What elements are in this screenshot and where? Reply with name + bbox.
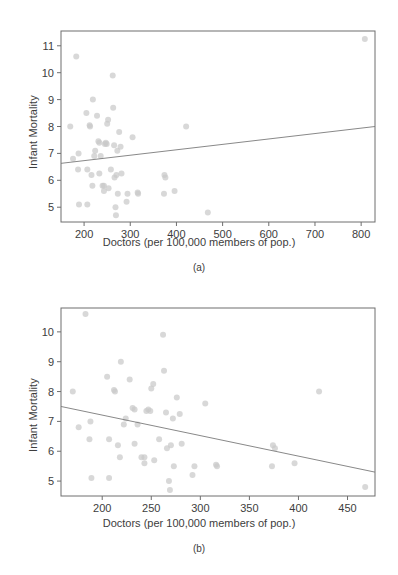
data-point [117,454,123,460]
data-point [108,167,114,173]
data-point [292,460,298,466]
data-point [118,359,124,365]
plot-area-b: Infant Mortality 56789102002503003504004… [0,285,398,533]
y-tick-label: 7 [48,415,54,427]
data-point [73,54,79,60]
y-tick-label: 5 [48,201,54,213]
data-point [118,144,124,150]
data-point [202,400,208,406]
x-tick-label: 200 [93,502,111,514]
data-point [76,202,82,208]
figure-panel-b: Infant Mortality 56789102002503003504004… [0,285,398,575]
data-point [269,463,275,469]
data-point [135,191,141,197]
data-point [141,460,147,466]
y-tick-label: 5 [48,475,54,487]
data-point [156,436,162,442]
data-point [191,463,197,469]
y-tick-label: 9 [48,94,54,106]
data-point [105,117,111,123]
data-point [171,463,177,469]
data-point [362,484,368,490]
y-tick-label: 8 [48,121,54,133]
caption-a: (a) [0,262,398,273]
data-point [118,171,124,177]
data-point [172,188,178,194]
data-point [87,124,93,130]
scatter-plot-a: 567891011200300400500600700800 [0,0,398,248]
data-point [124,191,130,197]
x-tick-label: 450 [338,502,356,514]
data-point [110,72,116,78]
data-point [121,421,127,427]
caption-b: (b) [0,543,398,554]
data-point [112,204,118,210]
data-point [96,140,102,146]
data-point [83,110,89,116]
data-point [147,408,153,414]
data-point [84,202,90,208]
data-point [106,436,112,442]
data-point [183,124,189,130]
scatter-plot-b: 5678910200250300350400450 [0,285,398,533]
data-point [90,97,96,103]
data-point [106,475,112,481]
data-point [174,395,180,401]
data-point [141,454,147,460]
y-tick-label: 7 [48,147,54,159]
data-point [88,172,94,178]
data-point [162,175,168,181]
data-point [168,442,174,448]
data-point [111,142,117,148]
data-point [127,377,133,383]
data-point [104,374,110,380]
data-point [67,124,73,130]
data-point [88,475,94,481]
data-point [316,389,322,395]
data-point [106,185,112,191]
x-tick-label: 400 [289,502,307,514]
data-point [150,381,156,387]
data-point [214,463,220,469]
data-point [151,457,157,463]
data-point [75,167,81,173]
data-point [167,487,173,493]
data-point [116,129,122,135]
data-point [96,171,102,177]
data-point [130,134,136,140]
data-point [115,442,121,448]
y-tick-label: 6 [48,174,54,186]
data-point [177,411,183,417]
data-point [112,389,118,395]
y-tick-label: 6 [48,445,54,457]
data-point [179,441,185,447]
data-point [70,389,76,395]
data-point [104,141,110,147]
data-point [161,368,167,374]
data-point [166,478,172,484]
data-point [124,199,130,205]
data-point [76,150,82,156]
y-tick-label: 10 [42,67,54,79]
data-point [113,212,119,218]
data-point [91,153,97,159]
data-point [205,210,211,216]
data-point [76,424,82,430]
y-tick-label: 11 [43,40,54,52]
data-point [87,418,93,424]
y-tick-label: 10 [42,326,54,338]
x-axis-label-b: Doctors (per 100,000 members of pop.) [0,517,398,529]
data-point [83,311,89,317]
y-tick-label: 8 [48,386,54,398]
figure-panel-a: Infant Mortality 56789101120030040050060… [0,0,398,285]
data-point [70,156,76,162]
x-tick-label: 300 [191,502,209,514]
x-axis-label-a: Doctors (per 100,000 members of pop.) [0,236,398,248]
data-point [84,167,90,173]
data-point [161,191,167,197]
data-point [86,436,92,442]
x-tick-label: 250 [142,502,160,514]
data-point [94,113,100,119]
data-point [132,441,138,447]
data-point [132,406,138,412]
